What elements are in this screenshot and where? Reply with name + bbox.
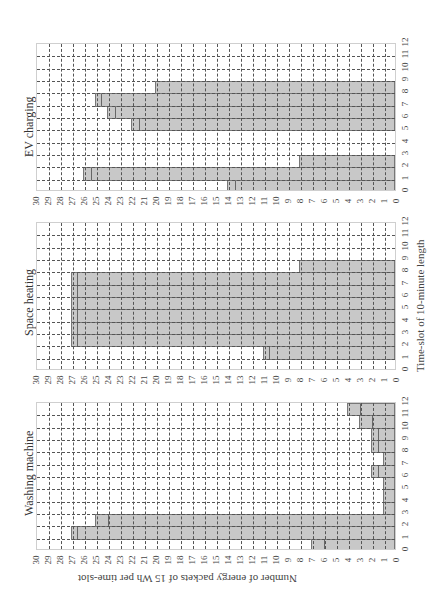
grid-line bbox=[37, 489, 395, 490]
scheduled-marker bbox=[77, 310, 78, 321]
y-tick-label: 7 bbox=[307, 193, 317, 209]
x-tick-label: 4 bbox=[400, 134, 410, 148]
chart-title: EV charging bbox=[22, 96, 37, 157]
y-tick-label: 4 bbox=[343, 372, 353, 388]
grid-line bbox=[37, 118, 395, 119]
x-tick-label: 5 bbox=[400, 300, 410, 314]
grid-line bbox=[37, 260, 395, 261]
y-tick-label: 10 bbox=[271, 372, 281, 388]
bar bbox=[71, 322, 395, 335]
y-tick-label: 24 bbox=[103, 193, 113, 209]
y-tick-label: 28 bbox=[55, 372, 65, 388]
y-tick-label: 24 bbox=[103, 552, 113, 568]
y-tick-label: 3 bbox=[355, 193, 365, 209]
bar bbox=[71, 526, 395, 539]
y-tick-label: 29 bbox=[43, 552, 53, 568]
scheduled-marker bbox=[77, 335, 78, 346]
grid-line bbox=[37, 93, 395, 94]
x-axis-label: Time-slot of 10-minute length bbox=[414, 239, 426, 372]
y-tick-label: 26 bbox=[79, 193, 89, 209]
y-tick-label: 29 bbox=[43, 193, 53, 209]
bar bbox=[107, 106, 395, 119]
y-tick-label: 25 bbox=[91, 372, 101, 388]
plot-area bbox=[36, 43, 396, 191]
grid-line bbox=[37, 167, 395, 168]
grid-line bbox=[37, 452, 395, 453]
y-tick-label: 23 bbox=[115, 552, 125, 568]
y-tick-label: 8 bbox=[295, 193, 305, 209]
y-tick-label: 30 bbox=[31, 552, 41, 568]
y-tick-label: 14 bbox=[223, 552, 233, 568]
y-tick-label: 13 bbox=[235, 372, 245, 388]
grid-line bbox=[37, 106, 395, 107]
scheduled-marker bbox=[139, 119, 140, 130]
x-tick-label: 8 bbox=[400, 443, 410, 457]
y-tick-label: 14 bbox=[223, 372, 233, 388]
y-tick-label: 15 bbox=[211, 372, 221, 388]
y-tick-label: 16 bbox=[199, 193, 209, 209]
y-tick-label: 25 bbox=[91, 552, 101, 568]
x-tick-label: 5 bbox=[400, 480, 410, 494]
grid-line bbox=[37, 272, 395, 273]
y-tick-label: 9 bbox=[283, 193, 293, 209]
grid-line bbox=[37, 180, 395, 181]
y-tick-label: 10 bbox=[271, 552, 281, 568]
y-tick-label: 28 bbox=[55, 552, 65, 568]
grid-line bbox=[37, 539, 395, 540]
y-tick-label: 27 bbox=[67, 372, 77, 388]
bar bbox=[71, 272, 395, 285]
x-tick-label: 9 bbox=[400, 431, 410, 445]
y-tick-label: 22 bbox=[127, 193, 137, 209]
grid-line bbox=[37, 297, 395, 298]
scheduled-marker bbox=[101, 94, 102, 105]
y-tick-label: 27 bbox=[67, 193, 77, 209]
y-tick-label: 11 bbox=[259, 372, 269, 388]
x-tick-label: 3 bbox=[400, 325, 410, 339]
y-tick-label: 21 bbox=[139, 193, 149, 209]
scheduled-marker bbox=[77, 527, 78, 538]
x-tick-label: 6 bbox=[400, 468, 410, 482]
grid-line bbox=[37, 130, 395, 131]
x-tick-label: 7 bbox=[400, 456, 410, 470]
scheduled-marker bbox=[378, 466, 379, 477]
x-tick-label: 2 bbox=[400, 158, 410, 172]
y-tick-label: 18 bbox=[175, 193, 185, 209]
plot-area bbox=[36, 222, 396, 370]
x-tick-label: 7 bbox=[400, 97, 410, 111]
y-tick-label: 2 bbox=[367, 372, 377, 388]
scheduled-marker bbox=[235, 181, 236, 191]
y-tick-label: 8 bbox=[295, 372, 305, 388]
y-tick-label: 23 bbox=[115, 372, 125, 388]
y-tick-label: 21 bbox=[139, 552, 149, 568]
y-tick-label: 18 bbox=[175, 372, 185, 388]
y-tick-label: 20 bbox=[151, 552, 161, 568]
grid-line bbox=[37, 309, 395, 310]
bar bbox=[71, 334, 395, 347]
x-tick-label: 11 bbox=[400, 47, 410, 61]
grid-line bbox=[37, 143, 395, 144]
bar bbox=[131, 118, 395, 131]
x-tick-label: 11 bbox=[400, 226, 410, 240]
y-tick-label: 28 bbox=[55, 193, 65, 209]
x-tick-label: 4 bbox=[400, 313, 410, 327]
grid-line bbox=[37, 334, 395, 335]
y-tick-label: 11 bbox=[259, 193, 269, 209]
bar bbox=[71, 285, 395, 298]
y-tick-label: 17 bbox=[187, 552, 197, 568]
y-tick-label: 9 bbox=[283, 552, 293, 568]
bar bbox=[371, 465, 395, 478]
x-tick-label: 8 bbox=[400, 84, 410, 98]
y-tick-label: 8 bbox=[295, 552, 305, 568]
grid-line bbox=[37, 465, 395, 466]
grid-line bbox=[37, 235, 395, 236]
y-tick-label: 6 bbox=[319, 552, 329, 568]
y-tick-label: 3 bbox=[355, 372, 365, 388]
y-tick-label: 2 bbox=[367, 193, 377, 209]
y-tick-label: 26 bbox=[79, 552, 89, 568]
y-tick-label: 30 bbox=[31, 372, 41, 388]
y-tick-label: 1 bbox=[379, 372, 389, 388]
y-tick-label: 16 bbox=[199, 552, 209, 568]
y-tick-label: 21 bbox=[139, 372, 149, 388]
y-tick-label: 15 bbox=[211, 552, 221, 568]
scheduled-marker bbox=[269, 347, 270, 358]
